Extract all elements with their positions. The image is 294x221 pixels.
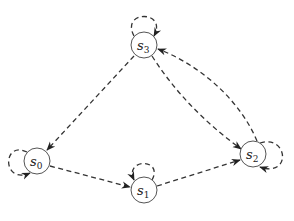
state-diagram: s3 s0 s1 s2 [0,0,294,221]
edge-s3-s0 [47,56,134,150]
node-s2: s2 [240,141,266,167]
node-s0: s0 [24,148,50,174]
edge-s2-s3 [158,49,257,141]
node-s1: s1 [131,177,157,203]
edge-s0-s1 [50,166,130,187]
edge-s1-s2 [157,160,240,186]
node-s3: s3 [131,32,157,58]
